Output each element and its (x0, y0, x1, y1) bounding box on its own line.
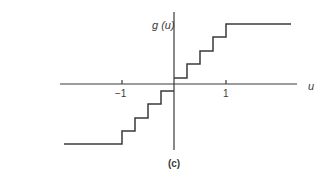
tick-label-minus-one: −1 (115, 88, 127, 99)
tick-label-one: 1 (223, 88, 229, 99)
y-axis-label: g (u) (152, 19, 175, 31)
curve-positive (174, 24, 291, 78)
staircase-figure: g (u) u −1 1 (c) (0, 0, 324, 179)
figure-caption: (c) (168, 158, 180, 169)
x-axis-label: u (308, 80, 314, 92)
